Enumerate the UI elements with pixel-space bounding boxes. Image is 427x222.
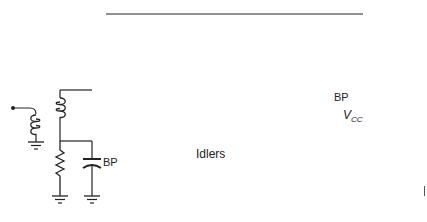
bypass-capacitor-input-label: BP: [103, 156, 118, 168]
bias-resistor-icon: [52, 141, 68, 203]
edge-mark: [424, 186, 425, 196]
input-terminal: [11, 106, 36, 114]
vcc-label-main: V: [343, 108, 351, 122]
bypass-capacitor-input-icon: [83, 141, 101, 203]
circuit-schematic: [0, 0, 427, 222]
vcc-label-subscript: CC: [351, 115, 363, 124]
bypass-capacitor-output-label: BP: [334, 91, 349, 103]
idlers-label: Idlers: [196, 147, 225, 161]
transformer-secondary-icon: [56, 90, 92, 141]
input-coil-icon: [28, 115, 44, 149]
vcc-label: VCC: [343, 108, 363, 124]
